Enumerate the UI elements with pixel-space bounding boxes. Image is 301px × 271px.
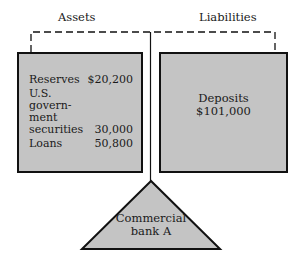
securities-value: 30,000 — [95, 124, 134, 136]
loans-row: Loans 50,800 — [29, 138, 133, 150]
assets-box: Reserves $20,200 U.S. govern- ment secur… — [17, 52, 143, 173]
liabilities-box: Deposits $101,000 — [159, 52, 288, 173]
loans-value: 50,800 — [95, 138, 134, 150]
reserves-value: $20,200 — [88, 74, 134, 86]
deposits-value: $101,000 — [161, 105, 286, 118]
bank-label: Commercial bank A — [100, 212, 202, 238]
securities-row: securities 30,000 — [29, 124, 133, 136]
bank-label-line2: bank A — [100, 225, 202, 238]
loans-label: Loans — [29, 138, 62, 150]
securities-label: securities — [29, 124, 83, 136]
dashed-beam — [31, 32, 275, 52]
reserves-row: Reserves $20,200 — [29, 74, 133, 86]
deposits-block: Deposits $101,000 — [161, 92, 286, 118]
reserves-label: Reserves — [29, 74, 80, 86]
